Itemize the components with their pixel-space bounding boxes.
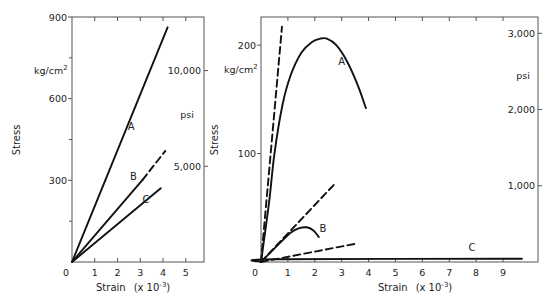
right-chart: 0123456789 100200 1,0002,0003,000 ABC St…	[209, 17, 542, 293]
x-tick-label: 2	[114, 267, 120, 278]
x-tick-label: 5	[183, 267, 189, 278]
psi-tick-label: 1,000	[508, 180, 535, 191]
psi-tick-label: 2,000	[508, 104, 535, 115]
x-tick-label: 4	[366, 267, 372, 278]
curve-label-a: A	[338, 56, 345, 67]
y-tick-label: 300	[49, 175, 67, 186]
y-tick-label: 100	[238, 148, 256, 159]
x-tick-label: 3	[339, 267, 345, 278]
psi-tick-label: 5,000	[174, 161, 201, 172]
y-tick-label: 900	[49, 12, 67, 23]
psi-tick-label: 10,000	[168, 65, 201, 76]
curve-label-c: C	[469, 242, 476, 253]
left-x-axis-title: Strain(x 10-3)	[96, 281, 170, 293]
x-tick-label: 1	[285, 267, 291, 278]
right-unit-kg: kg/cm2	[224, 63, 258, 75]
series-b-extension	[143, 151, 166, 180]
y-tick-label: 200	[238, 40, 256, 51]
x-tick-label: 2	[312, 267, 318, 278]
x-tick-label: 1	[92, 267, 98, 278]
series-a	[72, 27, 168, 262]
right-x-axis-title: Strain(x 10-3)	[378, 281, 452, 293]
series-a	[261, 38, 366, 262]
x-tick-label: 0	[63, 267, 69, 278]
right-plot-frame	[261, 17, 538, 262]
left-unit-psi: psi	[180, 109, 194, 120]
x-tick-label: 6	[419, 267, 425, 278]
series-a-tangent	[261, 27, 282, 262]
x-tick-label: 3	[137, 267, 143, 278]
left-series	[72, 27, 168, 262]
left-unit-kg: kg/cm2	[34, 64, 68, 76]
psi-tick-label: 3,000	[508, 28, 535, 39]
right-y-axis-title: Stress	[209, 125, 220, 156]
right-y-axis-ticks: 100200	[238, 40, 261, 159]
curve-label-a: A	[128, 121, 135, 132]
right-psi-axis-ticks: 1,0002,0003,000	[508, 28, 542, 191]
left-y-axis-ticks: 300600900	[49, 12, 72, 222]
x-tick-label: 0	[252, 267, 258, 278]
x-tick-label: 7	[446, 267, 452, 278]
curve-label-b: B	[319, 223, 326, 234]
left-plot-frame	[72, 17, 204, 262]
y-tick-label: 600	[49, 93, 67, 104]
left-y-axis-title: Stress	[11, 125, 22, 156]
right-x-axis-ticks: 0123456789	[252, 17, 506, 278]
right-unit-psi: psi	[516, 70, 530, 81]
left-chart: 012345 300600900 5,00010,000 ABC Stress …	[11, 12, 208, 294]
stress-strain-figure: 012345 300600900 5,00010,000 ABC Stress …	[0, 0, 551, 306]
x-tick-label: 9	[500, 267, 506, 278]
x-tick-label: 5	[392, 267, 398, 278]
right-curve-labels: ABC	[319, 56, 475, 253]
right-series	[252, 27, 522, 262]
x-tick-label: 8	[473, 267, 479, 278]
series-b	[72, 180, 143, 262]
x-tick-label: 4	[160, 267, 166, 278]
curve-label-c: C	[142, 194, 149, 205]
curve-label-b: B	[130, 171, 137, 182]
